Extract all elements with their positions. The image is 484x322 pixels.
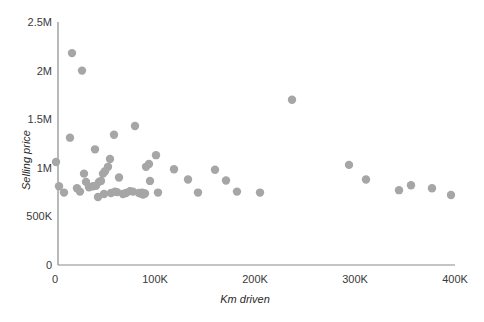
scatter-plot-svg: 0500K1M1.5M2M2.5M 0100K200K300K400K Sell… <box>0 0 484 322</box>
data-point <box>60 188 68 196</box>
data-point <box>194 188 202 196</box>
data-point <box>146 177 154 185</box>
x-tick-label: 200K <box>242 273 268 285</box>
data-point <box>395 186 403 194</box>
axes-group <box>58 22 455 265</box>
data-point <box>68 49 76 57</box>
data-point <box>447 191 455 199</box>
y-tick-label: 1.5M <box>28 113 52 125</box>
data-point <box>233 187 241 195</box>
data-point <box>106 155 114 163</box>
data-point <box>52 158 60 166</box>
y-tick-label: 2.5M <box>28 16 52 28</box>
data-point <box>184 175 192 183</box>
y-tick-label: 500K <box>26 210 52 222</box>
scatter-chart-container: 0500K1M1.5M2M2.5M 0100K200K300K400K Sell… <box>0 0 484 322</box>
y-tick-label: 1M <box>37 162 52 174</box>
data-point <box>407 181 415 189</box>
data-point <box>131 122 139 130</box>
data-point <box>110 131 118 139</box>
y-axis-title: Selling price <box>20 130 32 190</box>
data-point <box>170 165 178 173</box>
data-point <box>145 160 153 168</box>
data-point <box>345 161 353 169</box>
data-point <box>154 188 162 196</box>
data-point <box>76 187 84 195</box>
x-tick-label: 0 <box>52 273 58 285</box>
data-point <box>256 188 264 196</box>
data-points-group <box>52 49 455 201</box>
data-point <box>211 166 219 174</box>
x-tick-label: 400K <box>442 273 468 285</box>
x-axis-title: Km driven <box>220 293 270 305</box>
data-point <box>152 151 160 159</box>
data-point <box>428 184 436 192</box>
x-tick-label: 100K <box>142 273 168 285</box>
y-tick-label: 0 <box>46 259 52 271</box>
data-point <box>91 145 99 153</box>
data-point <box>141 189 149 197</box>
data-point <box>104 163 112 171</box>
data-point <box>66 133 74 141</box>
data-point <box>78 66 86 74</box>
data-point <box>115 173 123 181</box>
x-axis-tick-labels: 0100K200K300K400K <box>52 273 469 285</box>
data-point <box>80 169 88 177</box>
data-point <box>288 96 296 104</box>
y-tick-label: 2M <box>37 65 52 77</box>
data-point <box>362 175 370 183</box>
data-point <box>97 177 105 185</box>
data-point <box>222 176 230 184</box>
x-tick-label: 300K <box>342 273 368 285</box>
